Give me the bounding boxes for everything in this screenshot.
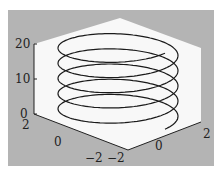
x-tick-label-0: 0 [155,139,163,153]
z-tick-label-10: 10 [15,72,30,86]
helix-3d-plot: 20 10 0 2 0 −2 −2 0 2 [0,0,224,176]
z-tick-label-20: 20 [15,37,30,51]
x-tick-label-neg2: −2 [107,151,125,165]
y-tick-label-2: 2 [22,118,30,132]
x-tick-label-2: 2 [203,127,211,141]
y-tick-label-0: 0 [54,135,62,149]
y-tick-label-neg2: −2 [85,151,103,165]
